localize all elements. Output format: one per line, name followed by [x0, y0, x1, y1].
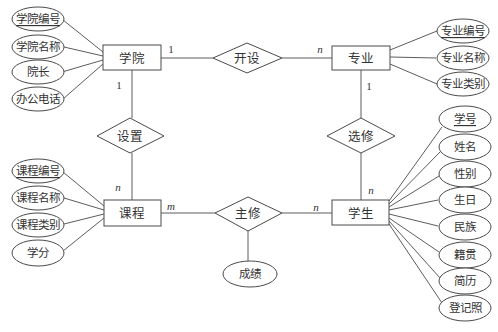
card-setup-course: n	[115, 181, 121, 193]
entity-course-label: 课程	[119, 206, 145, 221]
relationship-offer-label: 开设	[234, 51, 260, 66]
attr-name[interactable]: 姓名	[439, 134, 491, 160]
attr-college-name[interactable]: 学院名称	[12, 35, 64, 59]
college-attributes: 学院编号 学院名称 院长 办公电话	[12, 7, 64, 111]
card-elect-major: 1	[366, 80, 372, 92]
attr-course-name-label: 课程名称	[16, 191, 61, 205]
attr-college-name-label: 学院名称	[16, 40, 61, 54]
attr-photo-label: 登记照	[449, 301, 482, 315]
attr-course-id[interactable]: 课程编号	[12, 159, 64, 183]
entity-major-label: 专业	[348, 51, 374, 66]
card-major-study-student: n	[313, 201, 319, 213]
card-setup-college: 1	[116, 79, 122, 91]
card-offer-college: 1	[168, 43, 174, 55]
attr-birthday[interactable]: 生日	[439, 187, 491, 213]
attr-college-id[interactable]: 学院编号	[12, 7, 64, 31]
attr-native-place-label: 籍贯	[454, 248, 476, 262]
attr-major-category[interactable]: 专业类别	[437, 72, 489, 96]
attr-office-phone-label: 办公电话	[16, 92, 61, 106]
card-offer-major: n	[317, 43, 323, 55]
attr-major-name[interactable]: 专业名称	[437, 46, 489, 70]
relationship-setup[interactable]: 设置	[97, 118, 164, 153]
relationship-offer[interactable]: 开设	[213, 43, 282, 73]
attr-gender-label: 性别	[454, 167, 476, 181]
attr-ethnicity-label: 民族	[454, 220, 477, 234]
attr-office-phone[interactable]: 办公电话	[12, 87, 64, 111]
attr-college-id-label: 学院编号	[16, 12, 60, 26]
relationship-elect-label: 选修	[348, 129, 374, 144]
attr-student-id-label: 学号	[454, 112, 476, 126]
attr-gender[interactable]: 性别	[439, 161, 491, 187]
attr-dean-label: 院长	[27, 65, 50, 79]
entity-student[interactable]: 学生	[332, 200, 389, 225]
attr-resume[interactable]: 简历	[439, 268, 491, 294]
attr-credit[interactable]: 学分	[12, 240, 64, 266]
relationship-major-study[interactable]: 主修	[215, 197, 282, 231]
relationship-setup-label: 设置	[117, 129, 143, 144]
entity-college-label: 学院	[119, 51, 145, 66]
course-attributes: 课程编号 课程名称 课程类别 学分	[12, 159, 64, 266]
attr-name-label: 姓名	[454, 140, 476, 154]
attr-resume-label: 简历	[454, 274, 476, 288]
entity-student-label: 学生	[348, 206, 374, 221]
attr-birthday-label: 生日	[454, 193, 476, 207]
attr-grade-label: 成绩	[239, 267, 262, 281]
card-elect-student: n	[368, 184, 374, 196]
card-major-study-course: m	[167, 200, 175, 212]
attr-credit-label: 学分	[27, 246, 50, 260]
attr-course-category[interactable]: 课程类别	[12, 213, 64, 237]
major-attributes: 专业编号 专业名称 专业类别	[437, 19, 489, 96]
attr-photo[interactable]: 登记照	[439, 295, 491, 321]
relationship-elect[interactable]: 选修	[327, 118, 395, 153]
attr-course-category-label: 课程类别	[16, 218, 60, 232]
attr-student-id[interactable]: 学号	[439, 106, 491, 132]
attr-course-name[interactable]: 课程名称	[12, 186, 64, 210]
attr-major-name-label: 专业名称	[441, 51, 486, 65]
student-attributes: 学号 姓名 性别 生日 民族 籍贯 简历 登记照	[439, 106, 491, 321]
attr-course-id-label: 课程编号	[16, 164, 60, 178]
entity-course[interactable]: 课程	[104, 200, 161, 226]
entity-major[interactable]: 专业	[332, 46, 390, 70]
er-diagram: 学院 学院编号 学院名称 院长 办公电话 开设 1 n 专业 专业编号	[0, 0, 498, 332]
entity-college[interactable]: 学院	[103, 45, 161, 70]
attr-major-id-label: 专业编号	[441, 24, 485, 38]
attr-major-category-label: 专业类别	[441, 77, 485, 91]
attr-native-place[interactable]: 籍贯	[439, 242, 491, 268]
attr-ethnicity[interactable]: 民族	[439, 214, 491, 240]
attr-grade[interactable]: 成绩	[223, 261, 277, 287]
relationship-major-study-label: 主修	[235, 206, 261, 221]
attr-dean[interactable]: 院长	[12, 60, 64, 84]
attr-major-id[interactable]: 专业编号	[437, 19, 489, 43]
